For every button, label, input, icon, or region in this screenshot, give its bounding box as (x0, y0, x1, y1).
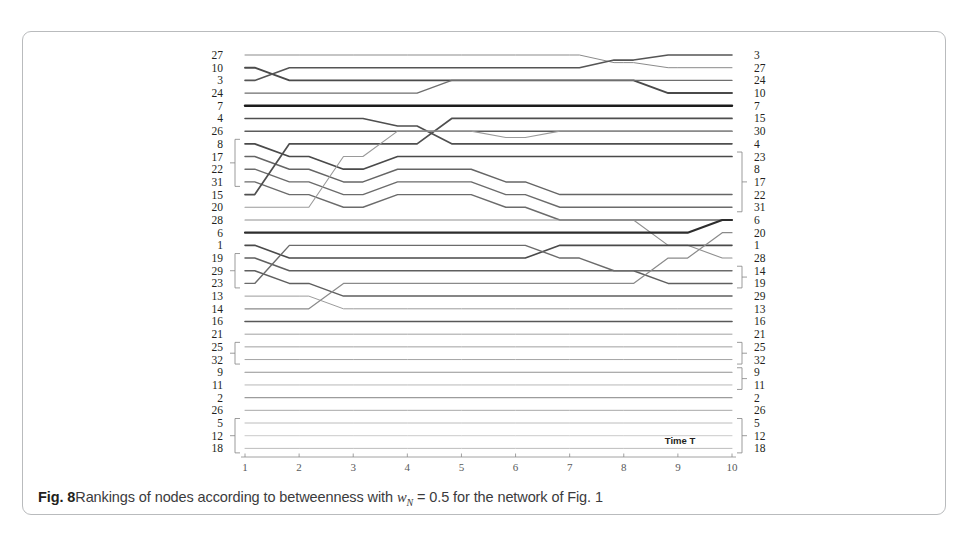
rank-lines (245, 55, 732, 448)
left-label-11: 11 (212, 379, 223, 391)
right-label-27: 27 (754, 62, 766, 74)
x-tick-label-8: 8 (621, 461, 627, 473)
left-label-25: 25 (212, 341, 224, 353)
right-label-18: 18 (754, 442, 766, 454)
right-label-1: 1 (754, 239, 760, 251)
left-group-brackets (230, 139, 240, 453)
right-label-21: 21 (754, 328, 766, 340)
left-label-6: 6 (217, 227, 223, 239)
group-bracket (235, 254, 240, 288)
left-label-28: 28 (212, 214, 224, 226)
group-bracket (235, 419, 240, 453)
caption-part-a: Rankings of nodes according to betweenne… (75, 489, 397, 505)
left-label-8: 8 (217, 138, 223, 150)
caption-part-b: = 0.5 for the network of Fig. 1 (413, 489, 603, 505)
rank-line-node-31 (245, 182, 732, 220)
right-label-20: 20 (754, 227, 766, 239)
right-label-12: 12 (754, 430, 766, 442)
rank-line-node-10 (245, 68, 732, 93)
group-bracket (737, 419, 742, 453)
rank-line-node-28 (245, 220, 732, 258)
left-label-26: 26 (212, 125, 224, 137)
left-label-7: 7 (217, 100, 223, 112)
right-label-19: 19 (754, 277, 766, 289)
rank-line-node-6 (245, 220, 732, 233)
group-bracket (737, 152, 742, 212)
rank-line-node-19 (245, 258, 732, 283)
right-label-5: 5 (754, 417, 760, 429)
left-label-32: 32 (212, 354, 224, 366)
rank-line-node-13 (245, 296, 732, 309)
rank-line-node-3 (245, 55, 732, 80)
left-label-19: 19 (212, 252, 224, 264)
left-label-10: 10 (212, 62, 224, 74)
x-tick-label-5: 5 (459, 461, 465, 473)
rank-line-node-15 (245, 118, 732, 194)
rank-line-node-17 (245, 157, 732, 195)
left-label-12: 12 (212, 430, 224, 442)
rank-line-node-1 (245, 245, 732, 258)
right-label-22: 22 (754, 189, 766, 201)
right-label-31: 31 (754, 201, 766, 213)
rank-line-node-23 (245, 245, 732, 283)
right-label-4: 4 (754, 138, 760, 150)
right-label-3: 3 (754, 49, 760, 61)
rank-line-node-24 (245, 80, 732, 93)
right-label-17: 17 (754, 176, 766, 188)
x-tick-label-1: 1 (242, 461, 248, 473)
figure-number: Fig. 8 (38, 489, 75, 505)
left-label-13: 13 (212, 290, 224, 302)
right-label-24: 24 (754, 74, 766, 86)
rank-line-node-4 (245, 118, 732, 143)
right-label-32: 32 (754, 354, 766, 366)
right-label-15: 15 (754, 112, 766, 124)
left-label-24: 24 (212, 87, 224, 99)
right-label-16: 16 (754, 315, 766, 327)
rank-line-node-22 (245, 169, 732, 207)
x-tick-label-10: 10 (727, 461, 739, 473)
x-tick-label-9: 9 (675, 461, 681, 473)
right-label-14: 14 (754, 265, 766, 277)
left-label-20: 20 (212, 201, 224, 213)
right-label-8: 8 (754, 163, 760, 175)
right-label-29: 29 (754, 290, 766, 302)
left-label-16: 16 (212, 315, 224, 327)
rank-line-node-8 (245, 144, 732, 169)
rank-line-node-27 (245, 55, 732, 68)
left-node-labels: 2710324742681722311520286119292313141621… (212, 49, 224, 454)
group-bracket (737, 266, 742, 288)
figure-card: 2710324742681722311520286119292313141621… (22, 31, 946, 515)
figure-caption: Fig. 8Rankings of nodes according to bet… (38, 489, 928, 508)
right-label-11: 11 (754, 379, 765, 391)
x-axis-title: Time T (665, 435, 696, 446)
x-tick-label-7: 7 (567, 461, 573, 473)
left-label-5: 5 (217, 417, 223, 429)
left-label-4: 4 (217, 112, 223, 124)
left-label-31: 31 (212, 176, 224, 188)
left-label-29: 29 (212, 265, 224, 277)
group-bracket (737, 368, 742, 390)
right-label-30: 30 (754, 125, 766, 137)
rank-line-node-14 (245, 233, 732, 309)
right-label-10: 10 (754, 87, 766, 99)
group-bracket (235, 139, 240, 186)
left-label-9: 9 (217, 366, 223, 378)
group-bracket (235, 342, 240, 364)
rank-line-node-29 (245, 271, 732, 296)
left-label-18: 18 (212, 442, 224, 454)
left-label-15: 15 (212, 189, 224, 201)
right-node-labels: 3272410715304238172231620128141929131621… (754, 49, 766, 454)
x-axis (241, 454, 736, 458)
right-label-26: 26 (754, 404, 766, 416)
x-tick-label-4: 4 (405, 461, 411, 473)
right-label-7: 7 (754, 100, 760, 112)
right-label-2: 2 (754, 392, 760, 404)
right-label-6: 6 (754, 214, 760, 226)
caption-variable: w (397, 489, 407, 505)
left-label-3: 3 (217, 74, 223, 86)
x-tick-label-2: 2 (296, 461, 302, 473)
left-label-23: 23 (212, 277, 224, 289)
left-label-17: 17 (212, 151, 224, 163)
rank-line-node-20 (245, 131, 732, 207)
left-label-2: 2 (217, 392, 223, 404)
